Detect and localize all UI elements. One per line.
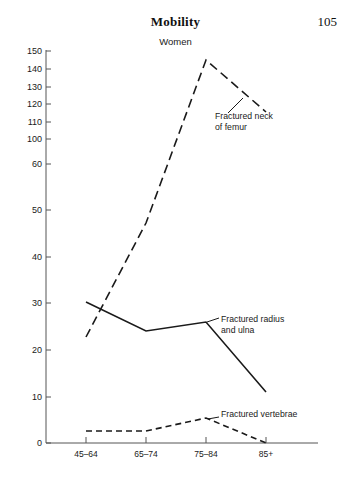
y-tick-label-30: 30: [32, 298, 42, 308]
y-tick-label-110: 110: [28, 117, 42, 127]
annotation-fractured-radius-and-ulna: Fractured radius and ulna: [221, 314, 284, 336]
y-tick-label-140: 140: [27, 64, 42, 74]
series-line-fractured-vertebrae: [86, 418, 266, 443]
x-tick-label-45-64: 45–64: [74, 449, 98, 459]
y-tick-label-20: 20: [32, 345, 42, 355]
y-tick-label-50: 50: [32, 205, 42, 215]
y-tick-label-0: 0: [37, 438, 42, 448]
y-tick-label-100: 100: [27, 134, 42, 144]
x-tick-label-75-84: 75–84: [194, 449, 218, 459]
y-tick-label-60: 60: [32, 159, 42, 169]
y-axis-ticks-lower: [46, 164, 51, 443]
leader-line-vertebrae: [208, 417, 219, 419]
y-tick-label-10: 10: [32, 392, 42, 402]
leader-line-radius: [207, 318, 219, 322]
annotation-fractured-vertebrae: Fractured vertebrae: [221, 409, 297, 420]
chart-page: Mobility 105 Women 150 140 130: [0, 0, 351, 477]
x-tick-label-65-74: 65–74: [134, 449, 158, 459]
y-tick-label-130: 130: [27, 82, 42, 92]
annotation-fractured-neck-of-femur: Fractured neck of femur: [215, 111, 273, 133]
y-tick-label-150: 150: [27, 46, 42, 56]
x-tick-label-85plus: 85+: [259, 449, 273, 459]
x-axis-ticks: [86, 437, 266, 443]
line-chart-svg: 150 140 130 120 110 100 60 50 40 30 20 1…: [0, 0, 351, 477]
y-tick-label-40: 40: [32, 252, 42, 262]
y-axis-ticks-upper: [46, 51, 51, 139]
y-tick-label-120: 120: [27, 99, 42, 109]
